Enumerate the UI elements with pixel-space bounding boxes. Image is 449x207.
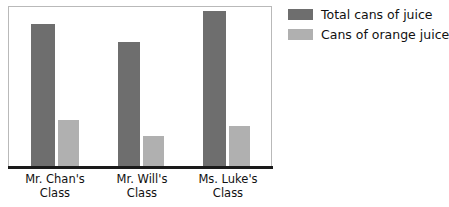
x-tick-label-will: Mr. Will's Class xyxy=(94,172,190,200)
bar-orange-cans-chan xyxy=(58,120,79,166)
x-tick-label-will-line1: Mr. Will's xyxy=(117,172,168,186)
legend-label-orange-cans: Cans of orange juice xyxy=(321,27,449,42)
bar-orange-cans-luke xyxy=(229,126,250,166)
legend-label-total-cans: Total cans of juice xyxy=(321,7,433,22)
bar-orange-cans-will xyxy=(143,136,164,166)
bar-total-cans-will xyxy=(118,42,140,166)
chart-legend: Total cans of juice Cans of orange juice xyxy=(288,5,446,45)
bar-total-cans-luke xyxy=(203,11,226,166)
bar-total-cans-chan xyxy=(31,24,55,166)
x-tick-label-chan-line2: Class xyxy=(7,186,103,200)
x-tick-label-luke-line1: Ms. Luke's xyxy=(198,172,257,186)
legend-swatch-dark-gray-icon xyxy=(288,9,313,20)
legend-item-orange-cans: Cans of orange juice xyxy=(288,25,446,44)
legend-item-total-cans: Total cans of juice xyxy=(288,5,446,24)
x-tick-label-luke-line2: Class xyxy=(180,186,276,200)
x-axis-baseline xyxy=(8,166,273,169)
legend-swatch-light-gray-icon xyxy=(288,29,313,40)
x-tick-label-luke: Ms. Luke's Class xyxy=(180,172,276,200)
x-tick-label-chan-line1: Mr. Chan's xyxy=(25,172,85,186)
x-tick-label-chan: Mr. Chan's Class xyxy=(7,172,103,200)
x-tick-label-will-line2: Class xyxy=(94,186,190,200)
